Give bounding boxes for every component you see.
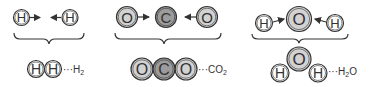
- svg-text:O: O: [292, 50, 305, 69]
- svg-text:H: H: [31, 61, 41, 77]
- svg-text:O: O: [292, 10, 305, 29]
- arrow-icon: [273, 19, 284, 22]
- svg-text:H: H: [275, 65, 285, 81]
- atom-h: H: [62, 10, 78, 26]
- h2o-group: H O H O H H ···H2O: [252, 7, 357, 83]
- svg-text:H: H: [65, 10, 74, 25]
- h2o-molecule: O H H: [271, 47, 327, 82]
- formula-label: ···CO2: [198, 64, 227, 76]
- arrow-icon: [315, 19, 326, 22]
- svg-text:H: H: [313, 65, 323, 81]
- atom-h: H: [327, 15, 344, 32]
- h2-group: H H H H ···H2: [14, 10, 85, 78]
- h2-molecule: H H: [28, 61, 62, 78]
- brace: [115, 33, 221, 44]
- svg-text:C: C: [161, 9, 172, 26]
- svg-text:C: C: [158, 61, 170, 78]
- atom-c: C: [156, 7, 177, 28]
- svg-text:O: O: [121, 9, 133, 26]
- brace: [14, 33, 84, 44]
- molecule-formation-diagram: H H H H ···H2 O C: [0, 0, 381, 87]
- atom-h: H: [14, 10, 30, 26]
- formula-label: ···H2: [63, 64, 84, 76]
- svg-text:O: O: [201, 9, 213, 26]
- atom-o: O: [197, 7, 218, 28]
- svg-text:O: O: [180, 61, 192, 78]
- svg-text:H: H: [17, 10, 26, 25]
- svg-text:O: O: [136, 61, 148, 78]
- co2-group: O C O O C O ···CO2: [115, 7, 227, 81]
- formula-label: ···H2O: [328, 66, 357, 78]
- brace: [252, 34, 348, 43]
- svg-text:H: H: [48, 61, 58, 77]
- atom-o: O: [287, 7, 312, 32]
- svg-text:H: H: [259, 16, 268, 31]
- atom-h: H: [256, 15, 273, 32]
- co2-molecule: O C O: [131, 58, 197, 80]
- svg-text:H: H: [330, 16, 339, 31]
- atom-o: O: [117, 7, 138, 28]
